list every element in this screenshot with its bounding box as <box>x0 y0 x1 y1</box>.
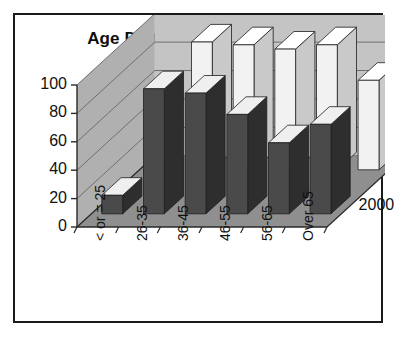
x-axis-category-label: 56-65 <box>259 205 275 241</box>
y-axis-tick-label: 100 <box>23 75 67 93</box>
y-axis-tick-label: 40 <box>23 160 67 178</box>
x-axis-category-label: 46-55 <box>217 205 233 241</box>
y-axis-tick-label: 0 <box>23 217 67 235</box>
y-axis-tick-label: 60 <box>23 132 67 150</box>
chart-plot-area: 020406080100< or = 2526-3536-4546-5556-6… <box>15 15 385 325</box>
chart-svg <box>15 15 385 325</box>
x-axis-category-label: 36-45 <box>175 205 191 241</box>
series-label-2000: 2000 <box>359 196 395 214</box>
x-axis-category-label: 26-35 <box>134 205 150 241</box>
y-axis-tick-label: 80 <box>23 103 67 121</box>
chart-frame: Age Distribution, 2000-2007 020406080100… <box>13 13 383 323</box>
x-axis-category-label: Over 65 <box>300 191 316 241</box>
y-axis-tick-label: 20 <box>23 189 67 207</box>
x-axis-category-label: < or = 25 <box>92 185 108 241</box>
